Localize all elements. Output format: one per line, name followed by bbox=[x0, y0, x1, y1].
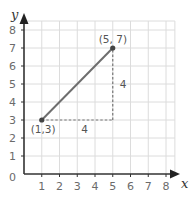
x-tick-label: 7 bbox=[145, 180, 152, 193]
y-axis-label: y bbox=[10, 7, 19, 22]
x-tick-label: 4 bbox=[92, 180, 99, 193]
y-tick-label: 2 bbox=[9, 132, 16, 145]
x-tick-labels: 12345678 bbox=[38, 174, 169, 193]
x-axis-label: x bbox=[181, 176, 189, 191]
y-tick-label: 4 bbox=[9, 96, 16, 109]
coordinate-plane: x y 0 12345678 12345678 44 (1,3)(5, 7) bbox=[0, 0, 190, 201]
point-label: (5, 7) bbox=[99, 33, 127, 45]
y-axis-arrow-icon bbox=[20, 13, 29, 24]
y-tick-label: 7 bbox=[9, 42, 16, 55]
y-tick-label: 5 bbox=[9, 78, 16, 91]
y-tick-label: 1 bbox=[9, 150, 16, 163]
x-tick-label: 5 bbox=[109, 180, 116, 193]
origin-label: 0 bbox=[9, 171, 16, 184]
horizontal-run-label: 4 bbox=[81, 123, 88, 135]
x-tick-label: 6 bbox=[127, 180, 134, 193]
y-tick-label: 6 bbox=[9, 60, 16, 73]
x-tick-label: 1 bbox=[38, 180, 45, 193]
data-point bbox=[39, 117, 44, 122]
y-tick-label: 3 bbox=[9, 114, 16, 127]
x-tick-label: 3 bbox=[74, 180, 81, 193]
y-tick-label: 8 bbox=[9, 24, 16, 37]
y-tick-labels: 12345678 bbox=[9, 24, 24, 163]
data-point bbox=[110, 45, 115, 50]
vertical-rise-label: 4 bbox=[120, 78, 127, 90]
x-tick-label: 2 bbox=[56, 180, 63, 193]
x-tick-label: 8 bbox=[163, 180, 170, 193]
point-label: (1,3) bbox=[31, 123, 56, 135]
guide-lines: 44 bbox=[42, 48, 127, 135]
